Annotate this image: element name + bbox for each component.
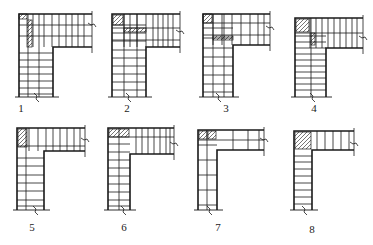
corner-figure-1 bbox=[15, 11, 96, 102]
corner-figure-4 bbox=[291, 15, 367, 102]
corner-figure-5 bbox=[13, 125, 89, 215]
break-line-icon bbox=[207, 206, 212, 215]
hatched-closer-brick bbox=[113, 15, 123, 25]
hatched-closer-brick bbox=[311, 33, 315, 45]
break-line-icon bbox=[33, 206, 38, 215]
corner-figure-2 bbox=[108, 11, 184, 102]
corner-figure-3 bbox=[199, 11, 274, 102]
figure-label-1: 1 bbox=[11, 102, 31, 114]
break-line-icon bbox=[216, 93, 221, 102]
corner-figure-6 bbox=[104, 125, 178, 215]
break-line-icon bbox=[302, 206, 307, 215]
figure-label-8: 8 bbox=[302, 223, 322, 235]
diagram-canvas bbox=[0, 0, 373, 245]
break-line-icon bbox=[126, 93, 131, 102]
hatched-closer-brick bbox=[295, 132, 311, 149]
figure-label-4: 4 bbox=[304, 102, 324, 114]
figure-label-3: 3 bbox=[216, 102, 236, 114]
corner-figure-8 bbox=[290, 128, 358, 215]
hatched-closer-brick bbox=[208, 131, 216, 139]
break-line-icon bbox=[121, 206, 126, 215]
figure-label-2: 2 bbox=[117, 102, 137, 114]
hatched-closer-brick bbox=[203, 14, 212, 23]
hatched-closer-brick bbox=[296, 19, 309, 32]
hatched-closer-brick bbox=[124, 28, 146, 32]
figure-label-6: 6 bbox=[114, 221, 134, 233]
corner-figure-7 bbox=[194, 127, 268, 215]
hatched-closer-brick bbox=[199, 131, 207, 139]
figure-label-7: 7 bbox=[208, 221, 228, 233]
figure-label-5: 5 bbox=[22, 221, 42, 233]
